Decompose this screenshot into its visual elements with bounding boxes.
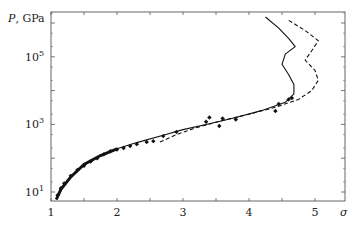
x-tick-label: 2 [114, 206, 121, 219]
y-axis-ticks: 101103105 [25, 13, 345, 199]
data-point-marker [273, 109, 277, 113]
x-tick-label: 4 [246, 206, 253, 219]
data-point-marker [174, 130, 178, 134]
chart: 12345 101103105 P, GPa σ [0, 0, 363, 229]
data-point-marker [151, 139, 155, 143]
y-tick-label: 105 [25, 49, 44, 64]
data-point-marker [217, 124, 221, 128]
x-tick-label: 5 [312, 206, 319, 219]
y-axis-label: P, GPa [7, 12, 45, 25]
x-axis-label: σ [340, 206, 348, 219]
plot-frame [51, 12, 345, 201]
data-point-marker [207, 115, 211, 119]
data-series [55, 17, 318, 200]
x-tick-label: 3 [180, 206, 187, 219]
y-tick-label: 103 [25, 116, 44, 131]
data-point-marker [204, 120, 208, 124]
x-tick-label: 1 [48, 206, 55, 219]
y-tick-label: 101 [25, 184, 44, 199]
x-axis-ticks: 12345 [48, 12, 319, 219]
solid-curve [56, 17, 295, 200]
dense-data-band [56, 149, 117, 200]
dashed-curve [160, 20, 318, 142]
